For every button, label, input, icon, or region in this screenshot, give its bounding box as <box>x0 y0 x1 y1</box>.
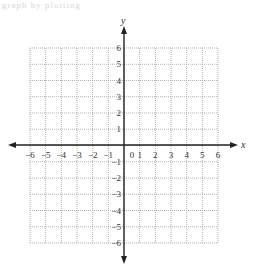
y-axis-up-arrow-icon <box>121 26 127 34</box>
y-tick-label: 6 <box>117 43 122 53</box>
y-axis-label: y <box>120 15 126 26</box>
x-tick-label: 2 <box>153 150 158 160</box>
y-tick-label: 4 <box>117 76 122 86</box>
x-tick-label: 6 <box>216 150 221 160</box>
x-tick-label: 1 <box>137 150 142 160</box>
x-tick-label: 0 <box>130 150 135 160</box>
y-tick-label: −1 <box>111 157 121 167</box>
x-tick-label: −2 <box>88 150 98 160</box>
x-axis-left-arrow-icon <box>8 142 16 148</box>
y-tick-label: −4 <box>111 206 121 216</box>
y-tick-label: 2 <box>117 108 122 118</box>
x-tick-label: −6 <box>25 150 35 160</box>
x-tick-label: 3 <box>169 150 174 160</box>
x-axis-label: x <box>240 139 246 150</box>
x-tick-label: 5 <box>200 150 205 160</box>
y-tick-label: 1 <box>117 124 122 134</box>
y-tick-label: 3 <box>117 92 122 102</box>
y-tick-label: −2 <box>111 173 121 183</box>
y-tick-label: −6 <box>111 238 121 248</box>
x-tick-label: −4 <box>57 150 67 160</box>
x-tick-label: −5 <box>41 150 51 160</box>
x-axis-right-arrow-icon <box>230 142 238 148</box>
y-tick-label: −3 <box>111 189 121 199</box>
y-tick-label: −5 <box>111 222 121 232</box>
y-tick-label: 5 <box>117 59 122 69</box>
x-tick-label: 4 <box>184 150 189 160</box>
coordinate-plane: xy−6−5−4−3−2−10123456654321−1−2−3−4−5−6 <box>0 0 255 270</box>
x-tick-label: −3 <box>72 150 82 160</box>
y-axis-down-arrow-icon <box>121 256 127 264</box>
